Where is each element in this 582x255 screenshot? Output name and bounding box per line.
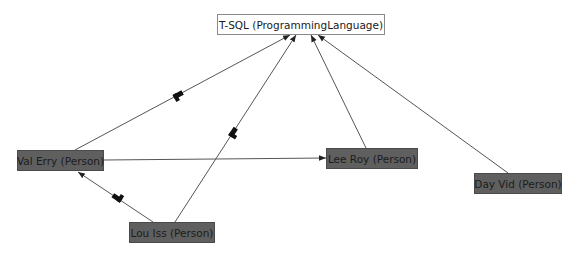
node-tsql[interactable]: T-SQL (ProgrammingLanguage) [217, 14, 385, 35]
edges-layer [75, 35, 508, 222]
node-label: Lee Roy (Person) [328, 153, 416, 165]
node-label: Day Vid (Person) [474, 178, 561, 190]
node-day-vid[interactable]: Day Vid (Person) [474, 173, 562, 194]
node-lee-roy[interactable]: Lee Roy (Person) [326, 148, 418, 169]
node-label: T-SQL (ProgrammingLanguage) [219, 19, 383, 31]
node-lou-iss[interactable]: Lou Iss (Person) [129, 222, 215, 243]
node-val-erry[interactable]: Val Erry (Person) [17, 150, 104, 171]
graph-canvas [0, 0, 582, 255]
edge-lee-to-tsql[interactable] [311, 35, 366, 148]
node-label: Lou Iss (Person) [131, 227, 214, 239]
node-label: Val Erry (Person) [17, 155, 104, 167]
